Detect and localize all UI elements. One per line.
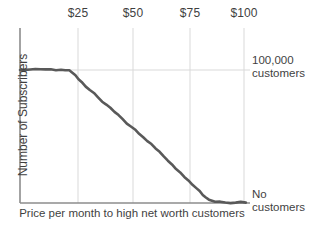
annotation-no-customers-line1: No — [252, 188, 305, 201]
y-axis-title: Number of Subscribers — [16, 30, 30, 200]
annotation-no-customers: No customers — [252, 188, 305, 214]
annotation-no-customers-line2: customers — [252, 201, 305, 214]
x-axis-title: Price per month to high net worth custom… — [12, 207, 252, 219]
annotation-100000-line1: 100,000 — [252, 54, 305, 67]
annotation-100000-line2: customers — [252, 67, 305, 80]
subscriber-demand-curve-chart: $25 $50 $75 $100 100,000 customers No cu… — [0, 0, 327, 226]
annotation-100000-customers: 100,000 customers — [252, 54, 305, 80]
